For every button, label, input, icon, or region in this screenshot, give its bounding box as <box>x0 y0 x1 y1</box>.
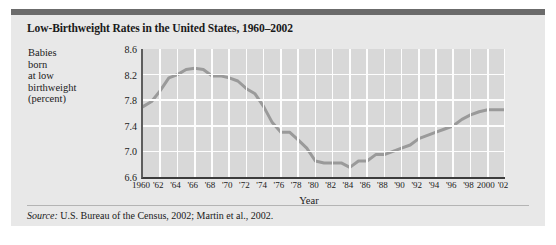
vertical-gridline <box>487 49 489 177</box>
vertical-gridline <box>211 49 213 177</box>
x-tick-label: '86 <box>360 180 371 190</box>
vertical-gridline <box>263 49 265 177</box>
vertical-gridline <box>315 49 317 177</box>
x-tick-label: 2000 <box>477 180 495 190</box>
vertical-gridline <box>366 49 368 177</box>
vertical-gridline <box>349 49 351 177</box>
vertical-gridline <box>435 49 437 177</box>
y-axis-tick-labels: 6.67.07.47.88.28.6 <box>115 49 137 177</box>
vertical-gridline <box>470 49 472 177</box>
y-tick-label: 8.6 <box>125 44 138 55</box>
source-keyword: Source: <box>27 210 58 221</box>
vertical-gridline <box>384 49 386 177</box>
x-tick-label: '70 <box>222 180 233 190</box>
vertical-gridline <box>504 49 505 177</box>
x-tick-label: '92 <box>411 180 422 190</box>
plot-area <box>141 49 505 179</box>
vertical-gridline <box>159 49 161 177</box>
y-tick-label: 7.8 <box>125 95 138 106</box>
x-tick-label: '74 <box>256 180 267 190</box>
vertical-gridline <box>332 49 334 177</box>
x-tick-label: '66 <box>187 180 198 190</box>
y-axis-label: Babiesbornat lowbirthweight(percent) <box>28 47 114 105</box>
x-axis-tick-labels: 1960'62'64'66'68'70'72'74'76'78'80'82'84… <box>141 180 505 194</box>
chart-title: Low-Birthweight Rates in the United Stat… <box>27 22 293 34</box>
figure-top-rule <box>11 9 545 15</box>
x-tick-label: '68 <box>205 180 216 190</box>
x-tick-label: '62 <box>153 180 164 190</box>
y-axis-label-line: (percent) <box>28 93 114 105</box>
horizontal-gridline <box>143 125 505 127</box>
plot-wrapper: 6.67.07.47.88.28.6 1960'62'64'66'68'70'7… <box>115 49 503 177</box>
vertical-gridline <box>246 49 248 177</box>
horizontal-gridline <box>143 151 505 153</box>
x-tick-label: '80 <box>308 180 319 190</box>
y-axis-label-line: Babies <box>28 47 114 59</box>
y-axis-label-line: at low <box>28 70 114 82</box>
y-tick-label: 8.2 <box>125 69 138 80</box>
vertical-gridline <box>297 49 299 177</box>
x-tick-label: '98 <box>463 180 474 190</box>
x-tick-label: '02 <box>498 180 509 190</box>
figure-panel: Low-Birthweight Rates in the United Stat… <box>11 9 545 226</box>
x-tick-label: '96 <box>446 180 457 190</box>
x-tick-label: '90 <box>394 180 405 190</box>
y-axis-label-line: birthweight <box>28 82 114 94</box>
y-tick-label: 7.4 <box>125 120 138 131</box>
vertical-gridline <box>401 49 403 177</box>
x-tick-label: '64 <box>170 180 181 190</box>
vertical-gridline <box>418 49 420 177</box>
x-tick-label: '94 <box>429 180 440 190</box>
vertical-gridline <box>452 49 454 177</box>
vertical-gridline <box>228 49 230 177</box>
x-tick-label: '82 <box>325 180 336 190</box>
horizontal-gridline <box>143 99 505 101</box>
x-tick-label: '78 <box>291 180 302 190</box>
vertical-gridline <box>280 49 282 177</box>
x-tick-label: '72 <box>239 180 250 190</box>
y-axis-label-line: born <box>28 59 114 71</box>
series-line-chart <box>143 49 505 177</box>
source-text: U.S. Bureau of the Census, 2002; Martin … <box>58 210 274 221</box>
plot-inner <box>143 49 505 177</box>
horizontal-gridline <box>143 74 505 76</box>
vertical-gridline <box>177 49 179 177</box>
source-note: Source: U.S. Bureau of the Census, 2002;… <box>27 210 273 221</box>
x-tick-label: '76 <box>274 180 285 190</box>
vertical-gridline <box>194 49 196 177</box>
x-tick-label: 1960 <box>132 180 150 190</box>
source-divider <box>27 205 529 206</box>
y-tick-label: 7.0 <box>125 146 138 157</box>
x-tick-label: '88 <box>377 180 388 190</box>
x-tick-label: '84 <box>343 180 354 190</box>
series-line <box>143 68 505 167</box>
